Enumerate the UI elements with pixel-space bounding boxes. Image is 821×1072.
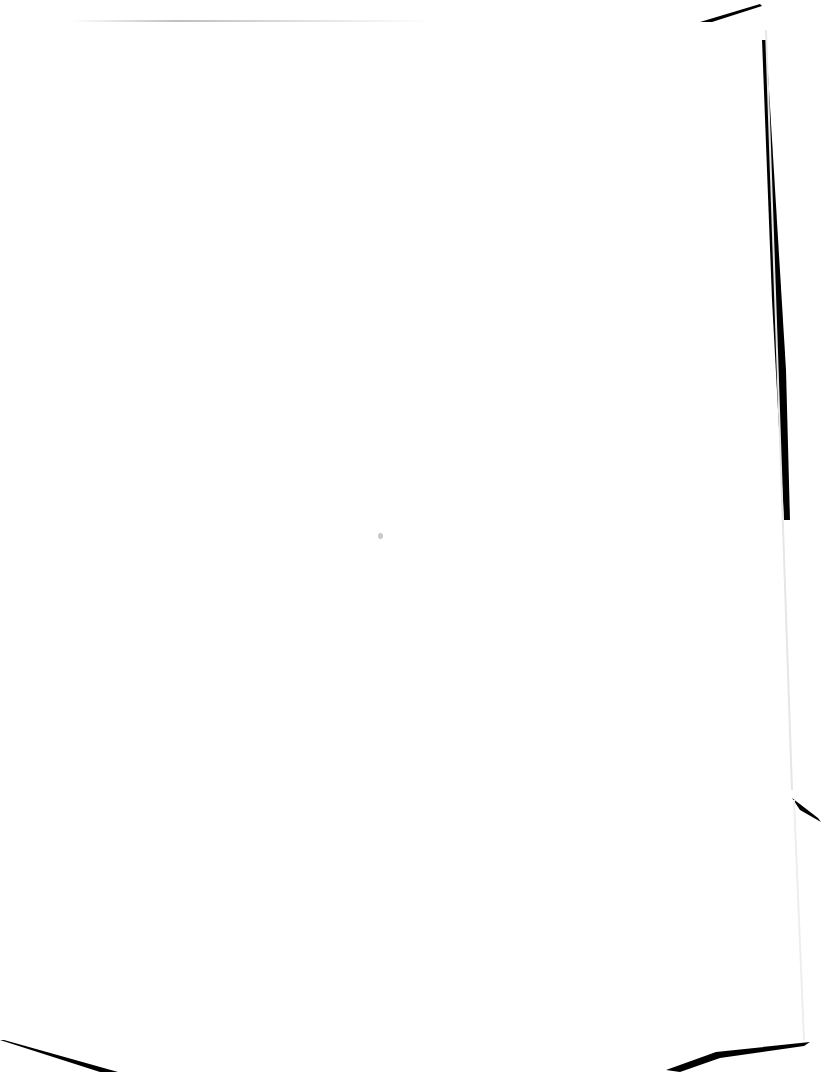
- bottom-left-edge-artifact: [0, 1040, 118, 1072]
- right-edge-shadow: [762, 40, 790, 520]
- blank-scanned-page: [0, 0, 821, 1072]
- scan-speck: [378, 533, 383, 539]
- top-right-edge-artifact: [700, 4, 762, 22]
- right-notch-artifact: [792, 798, 821, 822]
- bottom-right-edge-artifact: [666, 1042, 810, 1072]
- scan-edge-artifacts: [0, 0, 821, 1072]
